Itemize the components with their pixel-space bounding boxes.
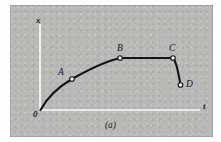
figure-caption: (a)	[0, 120, 221, 130]
origin-label: 0	[33, 110, 38, 119]
point-label-c: C	[169, 44, 175, 54]
point-label-b: B	[117, 44, 123, 54]
figure-container: x t 0 A B C D (a)	[0, 0, 221, 142]
point-label-a: A	[58, 68, 64, 78]
point-label-d: D	[186, 80, 193, 90]
y-axis-label: x	[36, 16, 41, 25]
x-axis-label: t	[203, 102, 206, 111]
